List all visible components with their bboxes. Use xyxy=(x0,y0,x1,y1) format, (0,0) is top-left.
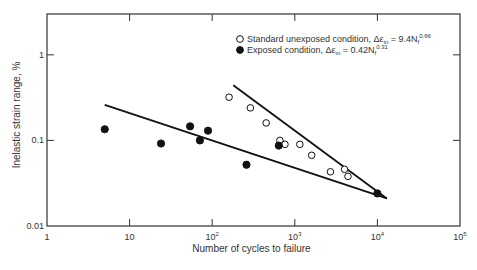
fit-line xyxy=(105,105,387,199)
exposed-point xyxy=(196,137,203,144)
x-tick-label: 103 xyxy=(288,231,302,242)
legend-open-circle-icon xyxy=(237,36,244,43)
exposed-point xyxy=(204,127,211,134)
exposed-point xyxy=(101,126,108,133)
unexposed-point xyxy=(247,105,254,112)
y-axis-ticks: 0.010.11 xyxy=(26,50,460,231)
legend-filled-circle-icon xyxy=(237,47,244,54)
y-tick-label: 0.01 xyxy=(26,221,44,231)
x-tick-label: 104 xyxy=(371,231,385,242)
exposed-point xyxy=(243,161,250,168)
x-tick-label: 10 xyxy=(125,232,135,242)
unexposed-point xyxy=(263,120,270,127)
unexposed-point xyxy=(327,168,334,175)
unexposed-point xyxy=(226,94,233,101)
x-axis-title: Number of cycles to failure xyxy=(192,243,311,254)
exposed-point xyxy=(374,190,381,197)
x-tick-label: 1 xyxy=(44,232,49,242)
fit-line xyxy=(233,85,387,198)
unexposed-point xyxy=(341,166,348,173)
exposed-point xyxy=(157,140,164,147)
fit-lines xyxy=(105,85,387,198)
x-tick-label: 102 xyxy=(206,231,220,242)
exposed-point xyxy=(275,142,282,149)
exposed-point xyxy=(186,123,193,130)
unexposed-point xyxy=(308,152,315,159)
legend: Standard unexposed condition, Δεin = 9.4… xyxy=(237,33,432,56)
y-tick-label: 0.1 xyxy=(31,135,44,145)
y-tick-label: 1 xyxy=(39,50,44,60)
strain-life-chart: 110102103104105 0.010.11 Number of cycle… xyxy=(0,0,477,270)
legend-entry: Exposed condition, Δεin = 0.42Nf0.31 xyxy=(247,44,389,56)
y-axis-title: Inelastic strain range, % xyxy=(11,62,22,169)
legend-entry: Standard unexposed condition, Δεin = 9.4… xyxy=(247,33,432,45)
x-tick-label: 105 xyxy=(453,231,467,242)
unexposed-point xyxy=(297,141,304,148)
unexposed-point xyxy=(345,173,352,180)
data-points xyxy=(101,94,381,197)
